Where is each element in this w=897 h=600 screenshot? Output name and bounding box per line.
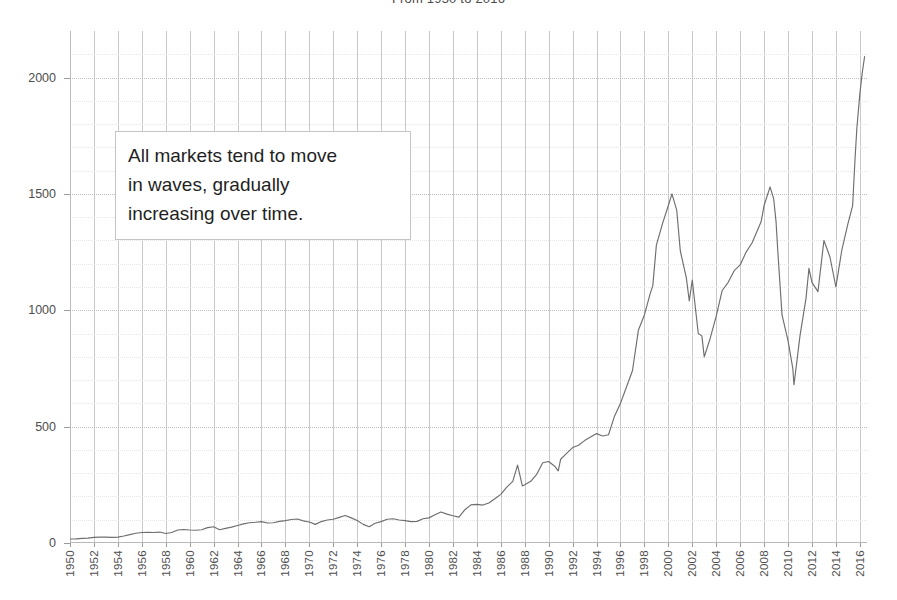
chart-title: From 1950 to 2016 xyxy=(0,0,897,6)
x-tick-mark xyxy=(644,543,645,547)
x-tick-label: 2016 xyxy=(854,550,866,577)
x-tick-mark xyxy=(549,543,550,547)
x-tick-mark xyxy=(453,543,454,547)
x-tick-mark xyxy=(381,543,382,547)
x-tick-mark xyxy=(94,543,95,547)
x-tick-label: 1980 xyxy=(423,550,435,577)
series-layer xyxy=(70,31,867,543)
x-tick-label: 1950 xyxy=(64,550,76,577)
y-tick-label: 1500 xyxy=(28,187,56,201)
x-tick-label: 1998 xyxy=(638,550,650,577)
x-tick-label: 1972 xyxy=(327,550,339,577)
x-tick-mark xyxy=(597,543,598,547)
x-tick-mark xyxy=(285,543,286,547)
x-tick-mark xyxy=(118,543,119,547)
x-tick-label: 2010 xyxy=(782,550,794,577)
x-tick-mark xyxy=(501,543,502,547)
x-tick-mark xyxy=(429,543,430,547)
x-tick-mark xyxy=(620,543,621,547)
x-tick-label: 1962 xyxy=(208,550,220,577)
annotation-line: All markets tend to move xyxy=(128,141,398,170)
x-tick-label: 1996 xyxy=(614,550,626,577)
x-tick-mark xyxy=(860,543,861,547)
y-tick-label: 1000 xyxy=(28,303,56,317)
y-tick-label: 500 xyxy=(35,420,56,434)
x-tick-mark xyxy=(357,543,358,547)
x-tick-label: 1974 xyxy=(351,550,363,577)
x-tick-label: 1952 xyxy=(88,550,100,577)
x-tick-label: 2004 xyxy=(710,550,722,577)
x-tick-mark xyxy=(836,543,837,547)
x-tick-label: 1966 xyxy=(255,550,267,577)
x-tick-mark xyxy=(405,543,406,547)
x-tick-label: 1978 xyxy=(399,550,411,577)
x-axis: 1950195219541956195819601962196419661968… xyxy=(70,543,867,600)
y-axis: 0500100015002000 xyxy=(0,31,66,543)
x-tick-mark xyxy=(70,543,71,547)
x-tick-mark xyxy=(477,543,478,547)
x-tick-label: 2006 xyxy=(734,550,746,577)
x-tick-mark xyxy=(764,543,765,547)
x-tick-label: 1994 xyxy=(591,550,603,577)
plot-area xyxy=(70,31,867,543)
x-tick-mark xyxy=(668,543,669,547)
x-tick-label: 1958 xyxy=(160,550,172,577)
x-tick-mark xyxy=(573,543,574,547)
x-tick-label: 1982 xyxy=(447,550,459,577)
x-tick-label: 1992 xyxy=(567,550,579,577)
series-index-level xyxy=(70,31,867,543)
chart-page: From 1950 to 2016 0500100015002000 19501… xyxy=(0,0,897,600)
x-tick-label: 2000 xyxy=(662,550,674,577)
x-tick-mark xyxy=(214,543,215,547)
x-tick-label: 1986 xyxy=(495,550,507,577)
y-tick-label: 2000 xyxy=(28,71,56,85)
x-tick-mark xyxy=(812,543,813,547)
x-tick-mark xyxy=(740,543,741,547)
annotation-line: increasing over time. xyxy=(128,199,398,228)
x-tick-label: 2014 xyxy=(830,550,842,577)
x-tick-label: 1990 xyxy=(543,550,555,577)
y-tick-label: 0 xyxy=(49,536,56,550)
x-tick-mark xyxy=(142,543,143,547)
x-tick-label: 1960 xyxy=(184,550,196,577)
x-tick-label: 1968 xyxy=(279,550,291,577)
x-tick-label: 2008 xyxy=(758,550,770,577)
x-tick-label: 1970 xyxy=(303,550,315,577)
x-tick-mark xyxy=(190,543,191,547)
x-tick-mark xyxy=(238,543,239,547)
x-tick-label: 2012 xyxy=(806,550,818,577)
x-tick-mark xyxy=(309,543,310,547)
annotation-line: in waves, gradually xyxy=(128,170,398,199)
x-tick-label: 2002 xyxy=(686,550,698,577)
x-tick-label: 1954 xyxy=(112,550,124,577)
annotation-callout: All markets tend to movein waves, gradua… xyxy=(115,131,411,240)
x-tick-mark xyxy=(716,543,717,547)
x-tick-mark xyxy=(692,543,693,547)
x-tick-mark xyxy=(525,543,526,547)
x-tick-mark xyxy=(788,543,789,547)
x-tick-mark xyxy=(166,543,167,547)
x-tick-label: 1956 xyxy=(136,550,148,577)
x-tick-mark xyxy=(333,543,334,547)
x-tick-label: 1964 xyxy=(232,550,244,577)
x-tick-label: 1976 xyxy=(375,550,387,577)
x-tick-mark xyxy=(261,543,262,547)
x-tick-label: 1984 xyxy=(471,550,483,577)
x-tick-label: 1988 xyxy=(519,550,531,577)
